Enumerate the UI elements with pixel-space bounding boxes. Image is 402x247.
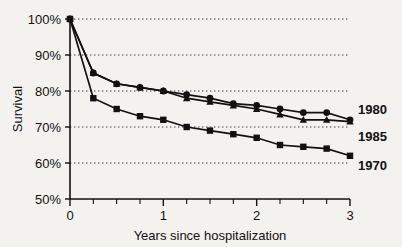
marker-circle [300, 109, 307, 116]
marker-square [183, 124, 189, 130]
series-label-1970: 1970 [358, 158, 387, 173]
marker-square [90, 95, 96, 101]
y-axis-title: Survival [10, 86, 25, 132]
series-legend: 198019851970 [358, 102, 387, 173]
marker-square [160, 117, 166, 123]
y-tick-label-70: 70% [35, 120, 61, 135]
y-tick-label-60: 60% [35, 156, 61, 171]
marker-square [253, 135, 259, 141]
x-tick-label-0: 0 [66, 208, 73, 223]
marker-square [207, 127, 213, 133]
marker-square [137, 113, 143, 119]
series-label-1985: 1985 [358, 129, 387, 144]
x-axis-title: Years since hospitalization [134, 228, 287, 243]
series-label-1980: 1980 [358, 102, 387, 117]
marker-square [277, 142, 283, 148]
marker-square [300, 144, 306, 150]
y-tick-label-100: 100% [28, 12, 62, 27]
x-tick-label-3: 3 [346, 208, 353, 223]
marker-circle [323, 109, 330, 116]
marker-square [230, 131, 236, 137]
marker-square [323, 145, 329, 151]
marker-square [347, 153, 353, 159]
x-tick-label-1: 1 [160, 208, 167, 223]
marker-square [113, 106, 119, 112]
x-tick-label-2: 2 [253, 208, 260, 223]
y-tick-label-50: 50% [35, 192, 61, 207]
y-tick-label-90: 90% [35, 48, 61, 63]
y-tick-label-80: 80% [35, 84, 61, 99]
marker-square [67, 16, 73, 22]
survival-chart: 50%60%70%80%90%100% 0123 Survival Years … [0, 0, 402, 247]
chart-canvas: 50%60%70%80%90%100% 0123 Survival Years … [0, 0, 402, 247]
